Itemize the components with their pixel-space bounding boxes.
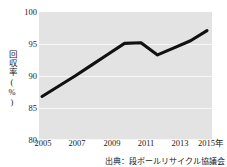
y-axis-tick-90: 90 (3, 72, 37, 81)
y-axis-tick-85: 85 (3, 104, 37, 113)
plot-area (39, 12, 212, 140)
y-axis-tick-100: 100 (3, 8, 37, 17)
source-caption: 出典：段ボールリサイクル協議会 (105, 157, 225, 166)
x-axis-tick-2007: 2007 (69, 139, 86, 148)
x-axis-tick-2009: 2009 (104, 139, 121, 148)
recovery-rate-line-chart: 回収率(%) 100 95 90 85 80 2005 2007 2009 20… (0, 0, 227, 167)
series-line-recovery-rate (39, 12, 212, 140)
x-axis-tick-2013: 2013 (172, 139, 189, 148)
y-axis-tick-80: 80 (3, 136, 37, 145)
y-axis-tick-group: 100 95 90 85 80 (0, 0, 37, 150)
x-axis-tick-2015: 2015年 (198, 139, 224, 148)
y-axis-tick-95: 95 (3, 40, 37, 49)
x-axis-tick-2005: 2005 (35, 139, 52, 148)
x-axis-tick-2011: 2011 (138, 139, 155, 148)
